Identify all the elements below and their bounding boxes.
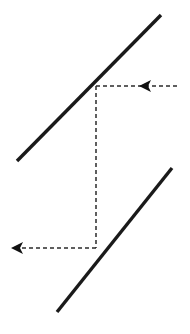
- figure-canvas: [0, 0, 190, 334]
- diagram-svg: [0, 0, 190, 334]
- canvas-background: [0, 0, 190, 334]
